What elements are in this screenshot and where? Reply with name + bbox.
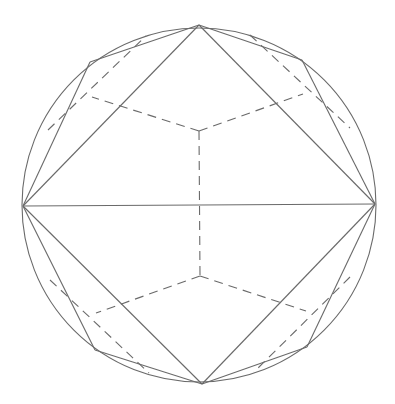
geometric-diagram xyxy=(0,0,395,404)
visible-edges xyxy=(23,25,375,384)
